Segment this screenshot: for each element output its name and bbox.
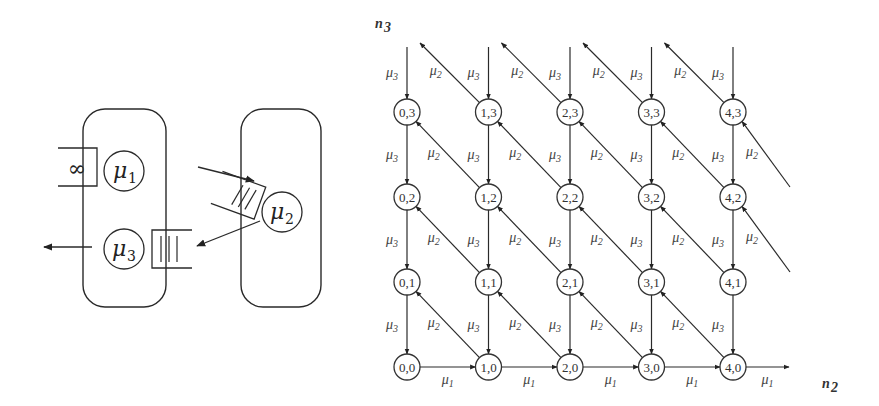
- mu2-label: μ2: [590, 230, 603, 247]
- mu3-label: μ3: [630, 317, 643, 334]
- state-node-label: 4,0: [725, 360, 741, 375]
- state-node-label: 3,2: [643, 190, 659, 205]
- mu3-label: μ3: [548, 65, 561, 82]
- mu3-label: μ3: [630, 147, 643, 164]
- mu2-label: μ2: [508, 315, 521, 332]
- mu2-label: μ2: [745, 144, 758, 161]
- state-node-label: 1,2: [480, 190, 496, 205]
- mu2-label: μ2: [510, 63, 523, 80]
- queue-buffer-station3: [152, 230, 192, 268]
- server-mu3: μ 3: [104, 229, 144, 269]
- mu3-label: μ3: [467, 317, 480, 334]
- mu2-label: μ2: [508, 230, 521, 247]
- mu3-label: μ3: [548, 317, 561, 334]
- state-node-label: 0,0: [399, 360, 415, 375]
- mu3-label: μ3: [385, 147, 398, 164]
- state-node-label: 1,1: [480, 275, 496, 290]
- mu1-label: μ1: [761, 372, 774, 389]
- mu2-label: μ2: [429, 63, 442, 80]
- mu2-label: μ2: [673, 63, 686, 80]
- state-node-label: 0,3: [399, 105, 415, 120]
- flow-arrow-1-to-2: [198, 167, 254, 181]
- mu2-label: μ2: [427, 230, 440, 247]
- y-axis-letter: n: [375, 16, 383, 31]
- mu3-label: μ3: [711, 317, 724, 334]
- diagram-canvas: ∞ μ 1 μ 2: [0, 0, 879, 406]
- state-node-label: 1,0: [480, 360, 496, 375]
- mu2-label: μ2: [671, 315, 684, 332]
- mu1-label: μ1: [441, 372, 454, 389]
- mu2-label: μ2: [671, 145, 684, 162]
- mu3-label: μ3: [385, 65, 398, 82]
- state-node-label: 3,3: [643, 105, 659, 120]
- mu3-label: μ3: [385, 232, 398, 249]
- mu2-label: μ2: [592, 63, 605, 80]
- x-axis-index: 2: [830, 380, 838, 395]
- mu2-label: μ2: [427, 315, 440, 332]
- mu3-label: μ3: [467, 65, 480, 82]
- state-node-label: 4,3: [725, 105, 741, 120]
- station-container-left: [83, 109, 166, 307]
- server-mu2-index: 2: [285, 211, 294, 227]
- mu2-label: μ2: [508, 145, 521, 162]
- x-axis-letter: n: [822, 376, 830, 391]
- mu1-label: μ1: [604, 372, 617, 389]
- server-mu2: μ 2: [262, 192, 302, 232]
- state-node-label: 2,1: [562, 275, 578, 290]
- y-axis-index: 3: [383, 20, 391, 35]
- mu2-label: μ2: [427, 145, 440, 162]
- mu2-label: μ2: [590, 315, 603, 332]
- queue-buffer-station2: [211, 171, 266, 219]
- state-node-label: 1,3: [480, 105, 496, 120]
- mu3-label: μ3: [467, 147, 480, 164]
- state-node-label: 3,1: [643, 275, 659, 290]
- state-node-label: 2,3: [562, 105, 578, 120]
- mu3-label: μ3: [711, 232, 724, 249]
- infinite-buffer: ∞: [58, 148, 97, 186]
- server-mu3-index: 3: [127, 248, 136, 264]
- y-axis-label: n 3: [375, 16, 391, 35]
- mu3-label: μ3: [548, 147, 561, 164]
- mu3-label: μ3: [548, 232, 561, 249]
- mu3-label: μ3: [711, 147, 724, 164]
- server-mu1: μ 1: [104, 151, 144, 191]
- mu2-label: μ2: [590, 145, 603, 162]
- mu3-label: μ3: [630, 65, 643, 82]
- state-node-label: 0,1: [399, 275, 415, 290]
- mu1-label: μ1: [685, 372, 698, 389]
- mu2-label: μ2: [745, 229, 758, 246]
- state-node-label: 0,2: [399, 190, 415, 205]
- flow-arrow-2-to-3: [197, 221, 260, 246]
- state-node-label: 4,1: [725, 275, 741, 290]
- mu3-label: μ3: [385, 317, 398, 334]
- mu3-label: μ3: [467, 232, 480, 249]
- server-mu1-index: 1: [128, 170, 137, 186]
- state-node-label: 2,2: [562, 190, 578, 205]
- server-mu1-symbol: μ: [113, 158, 127, 183]
- server-mu3-symbol: μ: [112, 236, 126, 261]
- state-node-label: 3,0: [643, 360, 659, 375]
- state-transition-lattice: μ3μ3μ3μ3μ3μ3μ3μ3μ3μ3μ3μ3μ3μ3μ3μ3μ3μ3μ3μ3…: [385, 43, 790, 389]
- server-mu2-symbol: μ: [270, 199, 284, 224]
- infinity-symbol: ∞: [68, 156, 86, 181]
- mu2-label: μ2: [671, 230, 684, 247]
- queueing-network: ∞ μ 1 μ 2: [44, 109, 321, 307]
- mu3-label: μ3: [711, 65, 724, 82]
- mu1-label: μ1: [522, 372, 535, 389]
- state-node-label: 4,2: [725, 190, 741, 205]
- mu3-label: μ3: [630, 232, 643, 249]
- state-node-label: 2,0: [562, 360, 578, 375]
- x-axis-label: n 2: [822, 376, 838, 395]
